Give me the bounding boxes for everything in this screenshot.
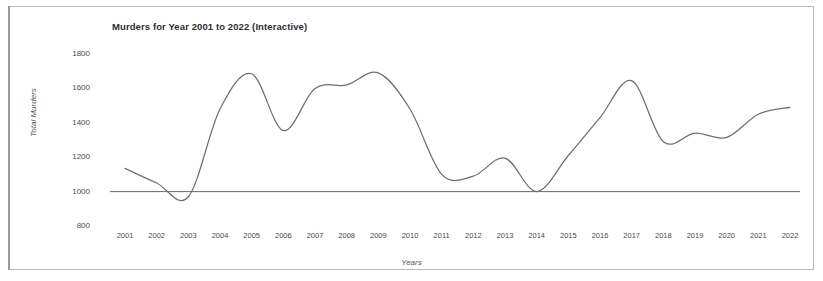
x-axis-tick-label: 2008 [330,231,364,240]
x-axis-tick-label: 2014 [520,231,554,240]
y-axis-tick-label: 1000 [50,187,90,196]
x-axis-tick-label: 2010 [393,231,427,240]
data-series-line[interactable] [125,72,790,200]
x-axis-tick-label: 2003 [171,231,205,240]
x-axis-tick-label: 2004 [203,231,237,240]
y-axis-tick-label: 800 [50,221,90,230]
y-axis-tick-label: 1600 [50,83,90,92]
x-axis-tick-label: 2006 [266,231,300,240]
y-axis-title: Total Murders [29,73,38,153]
x-axis-tick-label: 2012 [456,231,490,240]
x-axis-tick-label: 2011 [425,231,459,240]
x-axis-title: Years [0,258,823,267]
x-axis-tick-label: 2016 [583,231,617,240]
x-axis-tick-label: 2018 [646,231,680,240]
x-axis-tick-label: 2017 [615,231,649,240]
screenshot-root: Murders for Year 2001 to 2022 (Interacti… [0,0,823,281]
y-axis-tick-label: 1400 [50,118,90,127]
x-axis-tick-label: 2019 [678,231,712,240]
x-axis-tick-label: 2021 [741,231,775,240]
y-axis-tick-label: 1800 [50,49,90,58]
x-axis-tick-label: 2005 [235,231,269,240]
x-axis-tick-label: 2009 [361,231,395,240]
x-axis-tick-label: 2015 [551,231,585,240]
x-axis-tick-label: 2007 [298,231,332,240]
x-axis-tick-label: 2022 [773,231,807,240]
x-axis-tick-label: 2001 [108,231,142,240]
x-axis-tick-label: 2002 [140,231,174,240]
chart-plot-area[interactable]: Total Murders Years 80010001200140016001… [0,0,823,281]
x-axis-tick-label: 2020 [710,231,744,240]
y-axis-tick-label: 1200 [50,152,90,161]
x-axis-tick-label: 2013 [488,231,522,240]
